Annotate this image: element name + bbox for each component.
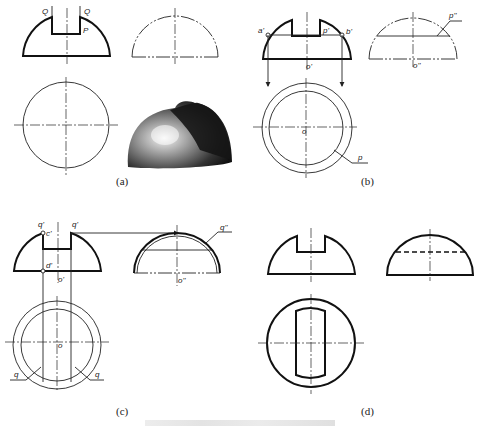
panel-a-top-view [14,77,118,175]
panel-a-side-view [132,8,218,64]
panel-d: (d) [258,228,473,418]
label-q-right: q [95,370,100,379]
label-q2: q'' [220,223,228,232]
panel-b-side-view: p'' o'' [369,11,462,70]
label-o2: o'' [413,61,421,70]
technical-drawing-figure: Q Q P (a) [0,0,480,427]
label-o: o [302,127,307,136]
caption-c: (c) [116,405,129,418]
label-d1: d' [46,261,52,270]
label-q-right: Q [84,7,90,16]
label-o2: o'' [178,276,186,285]
panel-a: Q Q P (a) [14,6,232,188]
panel-d-side-view [387,229,473,281]
panel-d-top-view [258,294,364,394]
panel-b-top-view: o p [253,78,368,178]
panel-c-front-view: q' c' q' d' o' [14,220,178,382]
point-c1 [41,231,45,235]
label-o1: o' [58,275,64,284]
label-o1: o' [306,62,312,71]
label-p: P [83,26,89,35]
label-q1-right: q' [72,220,78,229]
panel-d-front-view [268,228,355,282]
panel-b-front-view: a' b' p' o' [258,12,352,86]
panel-a-3d-view [128,101,232,168]
caption-d: (d) [361,405,374,418]
label-q-left: q [14,370,19,379]
label-p: p [357,153,363,162]
caption-b: (b) [361,175,374,188]
label-c1: c' [46,229,52,238]
label-b1: b' [346,27,352,36]
panel-b: a' b' p' o' p'' o'' o p (b) [253,11,462,188]
label-a1: a' [258,26,264,35]
point-d1 [41,269,45,273]
label-q-left: Q [42,7,48,16]
figure-caption-bar [145,420,335,426]
label-q1-left: q' [38,220,44,229]
caption-a: (a) [116,175,129,188]
label-p1: p' [322,26,329,35]
panel-a-front-view: Q Q P [23,6,110,64]
label-o: o [58,341,63,350]
panel-c-top-view: o q q [5,296,109,392]
panel-c: q' c' q' d' o' q'' o'' o q q [5,220,232,418]
label-p2: p'' [448,11,457,20]
panel-c-side-view: q'' o'' [134,223,232,286]
